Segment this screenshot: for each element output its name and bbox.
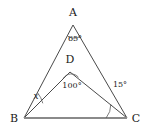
angle-arc-c (106, 104, 111, 118)
angle-label-b-variable: x (33, 91, 38, 101)
angle-arc-d (63, 74, 78, 78)
angle-label-c: 15° (113, 80, 127, 89)
angle-label-a: 65° (68, 34, 82, 43)
vertex-label-a: A (68, 6, 78, 19)
segment-db (24, 72, 70, 118)
segment-ab (24, 25, 73, 118)
geometry-canvas: A B C D 65° 100° 15° x (0, 0, 146, 136)
vertex-label-b: B (10, 112, 18, 125)
segment-dc (70, 72, 127, 118)
geometry-figure: A B C D 65° 100° 15° x (0, 0, 146, 136)
vertex-label-c: C (132, 112, 140, 125)
vertex-label-d: D (66, 53, 75, 66)
angle-label-d: 100° (62, 81, 81, 90)
